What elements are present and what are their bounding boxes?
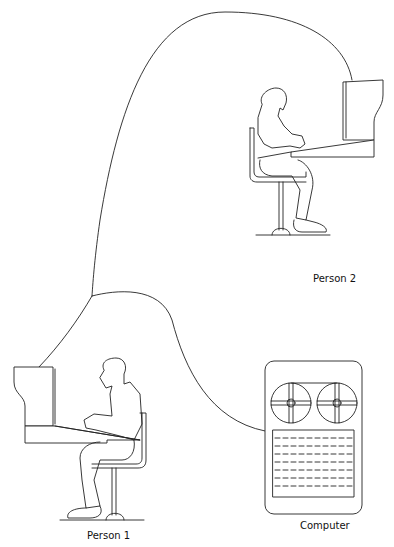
cable-junction-to-computer — [92, 292, 265, 431]
terminal-1-monitor — [14, 367, 53, 426]
person2-workstation — [250, 80, 383, 235]
computer-label: Computer — [300, 520, 350, 531]
person1-label: Person 1 — [87, 530, 130, 541]
computer-unit — [265, 361, 362, 514]
person2-label: Person 2 — [313, 273, 356, 284]
terminal-2-monitor — [343, 80, 383, 140]
person-2-figure — [258, 88, 305, 148]
terminal-1-desk — [25, 426, 140, 443]
cable-junction-to-person1 — [39, 296, 92, 367]
person1-workstation — [14, 358, 146, 520]
computer-cabinet — [265, 361, 362, 514]
person-1-figure — [84, 358, 142, 440]
terminal-2-desk — [291, 140, 374, 157]
